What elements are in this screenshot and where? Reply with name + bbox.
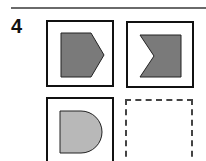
pentagon-arrow-shape-icon: [48, 22, 112, 85]
cell-3: [46, 97, 114, 161]
top-divider: [11, 7, 206, 9]
answer-slot[interactable]: [125, 99, 193, 161]
notched-square-shape-icon: [128, 23, 192, 86]
half-disc-shape-icon: [48, 99, 112, 161]
cell-2: [126, 21, 194, 88]
question-number: 4: [11, 16, 22, 36]
cell-1: [46, 20, 114, 87]
